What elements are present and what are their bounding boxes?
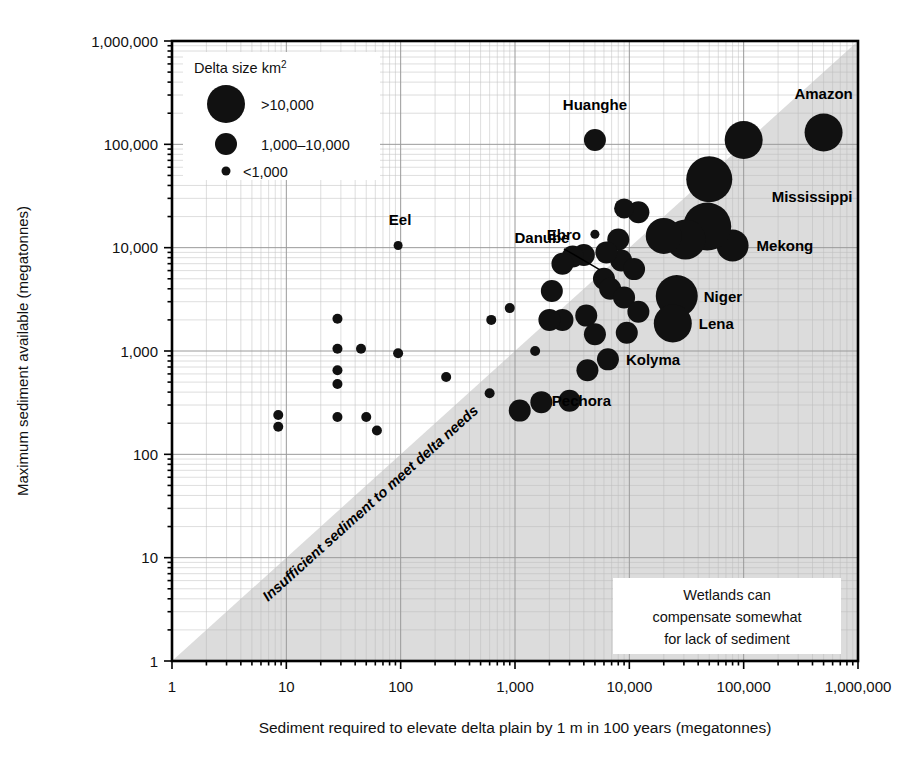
data-point xyxy=(686,156,732,202)
data-point xyxy=(576,359,598,381)
data-point xyxy=(584,323,606,345)
sediment-scatter-figure: Delta size km2>10,0001,000–10,000<1,000I… xyxy=(0,0,920,765)
data-point xyxy=(805,114,843,152)
point-label-eel: Eel xyxy=(389,211,412,228)
data-point xyxy=(627,301,649,323)
point-label-pechora: Pechora xyxy=(552,392,612,409)
data-point xyxy=(646,218,682,254)
data-point xyxy=(356,344,366,354)
x-tick-label: 10 xyxy=(278,678,295,695)
x-tick-label: 10,000 xyxy=(606,678,652,695)
y-tick-label: 10,000 xyxy=(112,239,158,256)
y-tick-label: 1,000 xyxy=(120,343,158,360)
legend-item-label: 1,000–10,000 xyxy=(261,137,350,153)
data-point xyxy=(530,346,540,356)
data-point xyxy=(614,198,634,218)
wetlands-note-line: Wetlands can xyxy=(683,587,771,603)
data-point xyxy=(394,241,403,250)
chart-canvas: Delta size km2>10,0001,000–10,000<1,000I… xyxy=(0,0,920,765)
y-tick-label: 10 xyxy=(141,549,158,566)
point-label-mississippi: Mississippi xyxy=(772,188,853,205)
data-point xyxy=(509,400,531,422)
x-tick-label: 1 xyxy=(168,678,176,695)
data-point xyxy=(332,365,342,375)
data-point xyxy=(486,315,496,325)
data-point xyxy=(485,388,495,398)
x-tick-label: 100 xyxy=(388,678,413,695)
legend-title: Delta size km2 xyxy=(194,59,287,77)
data-point xyxy=(597,348,619,370)
data-point xyxy=(623,258,645,280)
y-axis-title: Maximum sediment available (megatonnes) xyxy=(14,206,31,496)
x-axis-title: Sediment required to elevate delta plain… xyxy=(259,719,772,736)
point-label-lena: Lena xyxy=(699,315,735,332)
point-label-kolyma: Kolyma xyxy=(626,351,681,368)
x-tick-label: 100,000 xyxy=(717,678,771,695)
legend-bubble-marker xyxy=(222,167,231,176)
legend-bubble-marker xyxy=(207,85,245,123)
data-point xyxy=(654,304,692,342)
data-point xyxy=(332,314,342,324)
y-tick-label: 1 xyxy=(150,653,158,670)
data-point xyxy=(361,412,371,422)
point-label-mekong: Mekong xyxy=(757,237,814,254)
data-point xyxy=(538,309,560,331)
data-point xyxy=(505,303,515,313)
data-point xyxy=(575,305,597,327)
data-point xyxy=(273,422,283,432)
data-point xyxy=(332,412,342,422)
y-tick-label: 100,000 xyxy=(104,136,158,153)
plot-area: Delta size km2>10,0001,000–10,000<1,000I… xyxy=(172,41,858,661)
point-label-amazon: Amazon xyxy=(794,85,852,102)
data-point xyxy=(372,426,382,436)
data-point xyxy=(595,241,617,263)
data-point xyxy=(332,379,342,389)
y-tick-label: 1,000,000 xyxy=(91,33,158,50)
data-point xyxy=(590,230,599,239)
legend-bubble-marker xyxy=(215,133,237,155)
wetlands-note: Wetlands cancompensate somewhatfor lack … xyxy=(613,578,841,654)
point-label-huanghe: Huanghe xyxy=(563,96,627,113)
legend-item-label: <1,000 xyxy=(243,164,288,180)
y-tick-label: 100 xyxy=(133,446,158,463)
data-point xyxy=(616,322,638,344)
data-point xyxy=(551,253,573,275)
point-label-niger: Niger xyxy=(704,288,743,305)
x-tick-label: 1,000,000 xyxy=(825,678,892,695)
wetlands-note-line: compensate somewhat xyxy=(652,609,801,625)
legend-item-label: >10,000 xyxy=(261,97,314,113)
wetlands-note-line: for lack of sediment xyxy=(664,631,790,647)
legend-title-superscript: 2 xyxy=(281,59,287,70)
data-point xyxy=(273,410,283,420)
size-legend: Delta size km2>10,0001,000–10,000<1,000 xyxy=(183,52,380,180)
x-tick-label: 1,000 xyxy=(496,678,534,695)
data-point xyxy=(393,348,403,358)
data-point xyxy=(725,121,763,159)
data-point xyxy=(441,372,451,382)
data-point xyxy=(584,129,606,151)
point-label-danube: Danube xyxy=(514,229,569,246)
data-point xyxy=(530,391,552,413)
data-point xyxy=(332,344,342,354)
data-point xyxy=(541,280,563,302)
